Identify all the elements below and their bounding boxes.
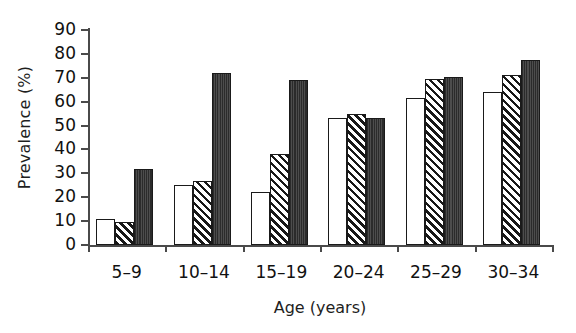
bar-group xyxy=(406,30,463,245)
x-axis-tick xyxy=(552,245,554,252)
x-axis-tick xyxy=(243,245,245,252)
bar-group xyxy=(251,30,308,245)
bar-15-19-series-2-hatched xyxy=(270,154,289,245)
y-axis-tick xyxy=(81,77,88,79)
bar-group xyxy=(483,30,540,245)
y-axis: 9080706050403020100 xyxy=(0,0,88,333)
y-axis-tick-label: 60 xyxy=(54,93,76,110)
y-axis-tick xyxy=(81,244,88,246)
bar-5-9-series-2-hatched xyxy=(115,222,134,245)
bar-25-29-series-1-open xyxy=(406,98,425,245)
y-axis-tick xyxy=(81,220,88,222)
bar-group-bars xyxy=(96,30,153,245)
bar-5-9-series-3-dark xyxy=(134,169,153,245)
bar-group-bars xyxy=(483,30,540,245)
y-axis-tick-label: 80 xyxy=(54,45,76,62)
y-axis-tick-label: 30 xyxy=(54,164,76,181)
y-axis-tick xyxy=(81,172,88,174)
bar-30-34-series-1-open xyxy=(483,92,502,245)
bar-30-34-series-3-dark xyxy=(521,60,540,245)
y-axis-tick xyxy=(81,125,88,127)
bar-20-24-series-3-dark xyxy=(366,118,385,245)
bar-group-bars xyxy=(174,30,231,245)
x-axis-tick xyxy=(475,245,477,252)
y-axis-tick xyxy=(81,53,88,55)
bar-10-14-series-1-open xyxy=(174,185,193,245)
y-axis-tick-label: 40 xyxy=(54,140,76,157)
bar-group xyxy=(174,30,231,245)
y-axis-tick xyxy=(81,101,88,103)
y-axis-tick-label: 0 xyxy=(65,236,76,253)
y-axis-tick-label: 10 xyxy=(54,212,76,229)
x-axis-tick xyxy=(397,245,399,252)
bar-group-bars xyxy=(328,30,385,245)
bar-group xyxy=(96,30,153,245)
bar-25-29-series-2-hatched xyxy=(425,79,444,245)
bar-15-19-series-1-open xyxy=(251,192,270,245)
x-axis-tick xyxy=(320,245,322,252)
y-axis-tick-label: 70 xyxy=(54,69,76,86)
bar-15-19-series-3-dark xyxy=(289,80,308,245)
y-axis-tick xyxy=(81,29,88,31)
y-axis-tick xyxy=(81,196,88,198)
bar-30-34-series-2-hatched xyxy=(502,75,521,245)
bar-group-bars xyxy=(251,30,308,245)
y-axis-tick-label: 90 xyxy=(54,21,76,38)
x-axis-tick-origin xyxy=(88,245,90,252)
bar-chart-figure: Prevalence (%) 9080706050403020100 Age (… xyxy=(0,0,576,333)
bar-20-24-series-2-hatched xyxy=(347,114,366,245)
bar-25-29-series-3-dark xyxy=(444,77,463,245)
bar-10-14-series-3-dark xyxy=(212,73,231,245)
bar-10-14-series-2-hatched xyxy=(193,181,212,246)
x-axis-title: Age (years) xyxy=(88,298,552,317)
x-axis-tick xyxy=(165,245,167,252)
y-axis-tick xyxy=(81,148,88,150)
bar-20-24-series-1-open xyxy=(328,118,347,245)
bar-group xyxy=(328,30,385,245)
bar-group-bars xyxy=(406,30,463,245)
bar-5-9-series-1-open xyxy=(96,219,115,245)
y-axis-tick-label: 20 xyxy=(54,188,76,205)
x-axis-tick-label: 30–34 xyxy=(465,262,561,282)
y-axis-tick-label: 50 xyxy=(54,117,76,134)
